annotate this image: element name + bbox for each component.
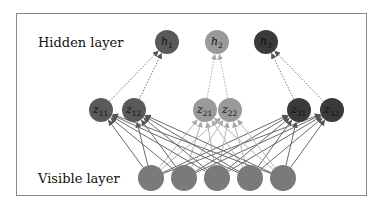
- hidden-layer-label: Hidden layer: [38, 35, 124, 50]
- neural-network-diagram: h1h2h3z11z12z21z22z31z32 Hidden layer Vi…: [0, 0, 378, 206]
- edge-v5-z11: [113, 115, 271, 174]
- edge-v5-z32: [291, 121, 325, 168]
- z-node-z32: z32: [320, 98, 344, 122]
- z-node-z31: z31: [287, 98, 311, 122]
- z-node-z21: z21: [193, 98, 217, 122]
- visible-node-v2: [171, 165, 197, 191]
- hidden-node-h1: h1: [155, 30, 179, 54]
- z-node-z11: z11: [89, 98, 113, 122]
- visible-node-v5: [270, 165, 296, 191]
- edge-z31-h3: [272, 54, 294, 100]
- visible-node-v1: [138, 165, 164, 191]
- z-node-z22: z22: [218, 98, 242, 122]
- edge-z21-h2: [207, 55, 215, 98]
- visible-layer-label: Visible layer: [37, 171, 120, 186]
- nodes: h1h2h3z11z12z21z22z31z32: [89, 30, 344, 191]
- hidden-node-h3: h3: [254, 30, 278, 54]
- hidden-node-h2: h2: [205, 30, 229, 54]
- edge-v4-z11: [113, 115, 238, 172]
- edge-z11-h1: [109, 51, 158, 101]
- edge-z32-h3: [275, 51, 324, 101]
- edge-v4-z21: [212, 121, 243, 167]
- z-node-z12: z12: [122, 98, 146, 122]
- edge-v1-z31: [163, 115, 287, 172]
- visible-node-v3: [204, 165, 230, 191]
- visible-node-v4: [237, 165, 263, 191]
- visible-to-z-edges: [109, 115, 325, 174]
- edge-z22-h2: [219, 55, 227, 98]
- z-to-hidden-edges: [109, 51, 323, 101]
- edge-v3-z31: [227, 118, 289, 169]
- edge-z12-h1: [139, 54, 161, 100]
